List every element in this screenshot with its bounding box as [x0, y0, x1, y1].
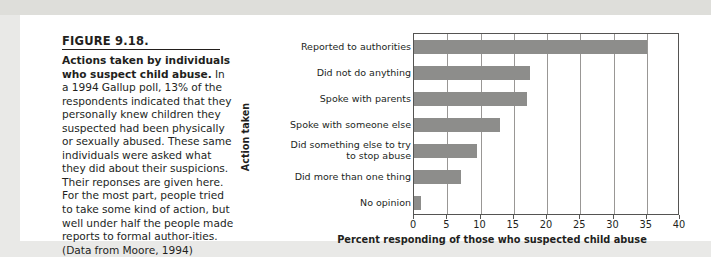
- figure-caption-text: Actions taken by individuals who suspect…: [62, 54, 234, 257]
- x-axis-tick-label: 40: [664, 219, 694, 230]
- figure-card: FIGURE 9.18. Actions taken by individual…: [20, 15, 711, 241]
- x-axis-tick-label: 20: [531, 219, 561, 230]
- bar: [414, 92, 527, 106]
- category-axis-labels: Reported to authoritiesDid not do anythi…: [264, 33, 411, 215]
- bar-chart: Action taken Reported to authoritiesDid …: [242, 33, 704, 251]
- page-top-band: [0, 0, 711, 15]
- plot-area: [413, 33, 679, 215]
- category-label: Did something else to try to stop abuse: [264, 139, 411, 161]
- x-axis-tick-label: 0: [398, 219, 428, 230]
- bar: [414, 118, 500, 132]
- x-axis-tick-label: 30: [598, 219, 628, 230]
- category-label: Did more than one thing: [264, 171, 411, 182]
- bar: [414, 170, 461, 184]
- category-label: Spoke with someone else: [264, 119, 411, 130]
- bar: [414, 66, 530, 80]
- y-axis-title: Action taken: [240, 97, 251, 177]
- gridline: [580, 34, 581, 214]
- x-axis-tick-label: 35: [631, 219, 661, 230]
- bar: [414, 40, 647, 54]
- figure-caption-rest: In a 1994 Gallup poll, 13% of the respon…: [62, 68, 233, 256]
- x-axis-tick-label: 25: [564, 219, 594, 230]
- category-label: Spoke with parents: [264, 93, 411, 104]
- category-label: Reported to authorities: [264, 41, 411, 52]
- x-axis-title: Percent responding of those who suspecte…: [302, 234, 682, 245]
- x-axis-tick-label: 5: [431, 219, 461, 230]
- figure-caption: FIGURE 9.18. Actions taken by individual…: [62, 35, 234, 257]
- x-axis-tick-labels: 0510152025303540: [413, 219, 679, 233]
- bar: [414, 144, 477, 158]
- x-axis-tick-label: 10: [465, 219, 495, 230]
- category-label: Did not do anything: [264, 67, 411, 78]
- gridline: [614, 34, 615, 214]
- figure-number: FIGURE 9.18.: [62, 35, 220, 50]
- gridline: [647, 34, 648, 214]
- gridline: [547, 34, 548, 214]
- category-label: No opinion: [264, 197, 411, 208]
- figure-caption-lead: Actions taken by individuals who suspect…: [62, 54, 230, 80]
- x-axis-tick-label: 15: [498, 219, 528, 230]
- gridline: [514, 34, 515, 214]
- bar: [414, 196, 421, 210]
